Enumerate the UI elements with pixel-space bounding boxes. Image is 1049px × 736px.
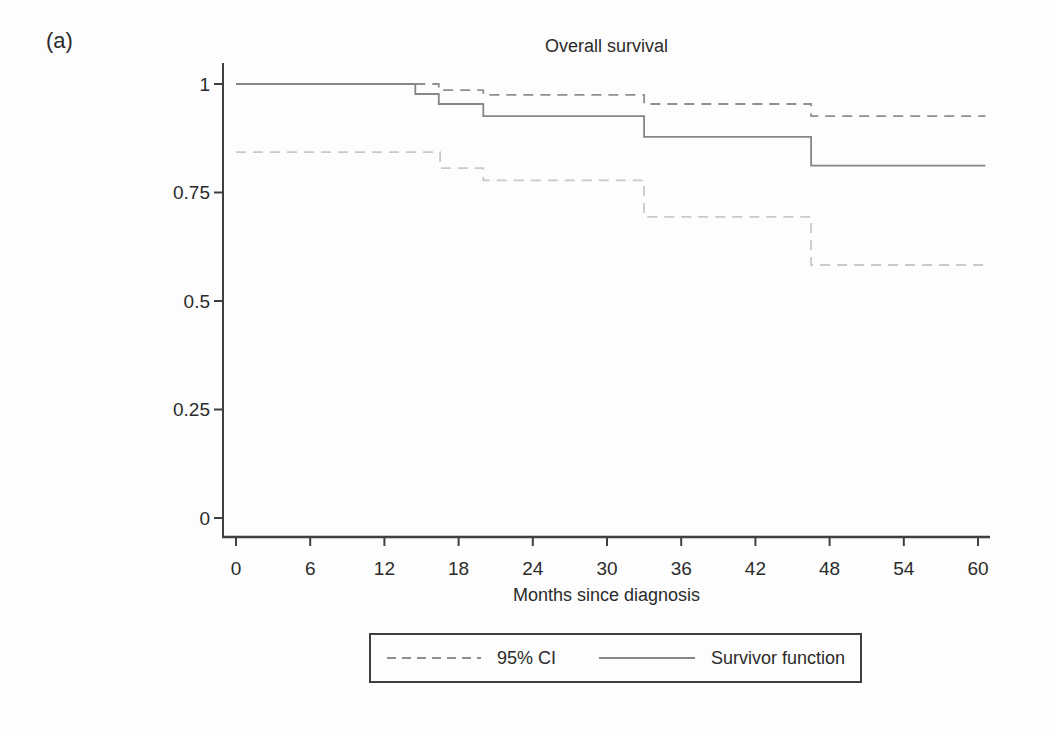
legend-label-survivor: Survivor function (711, 648, 845, 669)
legend-solid-sample (598, 655, 696, 661)
y-tick-label: 0.25 (173, 399, 210, 420)
x-tick-label: 6 (305, 558, 316, 579)
legend-label-ci: 95% CI (497, 648, 556, 669)
survival-plot: 00.250.50.75106121824303642485460 (0, 0, 1049, 736)
x-tick-label: 60 (967, 558, 988, 579)
y-tick-label: 0.5 (184, 291, 210, 312)
series-95-ci-lower (236, 152, 985, 265)
x-tick-label: 36 (671, 558, 692, 579)
x-axis-label: Months since diagnosis (223, 585, 990, 606)
series-survivor-function (236, 84, 985, 166)
y-tick-label: 0.75 (173, 182, 210, 203)
figure-canvas: (a) Overall survival 00.250.50.751061218… (0, 0, 1049, 736)
x-tick-label: 48 (819, 558, 840, 579)
legend-dashed-sample (386, 655, 482, 661)
y-tick-label: 1 (199, 74, 210, 95)
series-95-ci-upper (415, 84, 985, 116)
x-tick-label: 54 (893, 558, 915, 579)
y-tick-label: 0 (199, 508, 210, 529)
legend-box: 95% CI Survivor function (369, 633, 862, 683)
x-tick-label: 12 (374, 558, 395, 579)
x-tick-label: 42 (745, 558, 766, 579)
x-tick-label: 24 (522, 558, 544, 579)
x-tick-label: 0 (231, 558, 242, 579)
x-tick-label: 30 (596, 558, 617, 579)
x-tick-label: 18 (448, 558, 469, 579)
